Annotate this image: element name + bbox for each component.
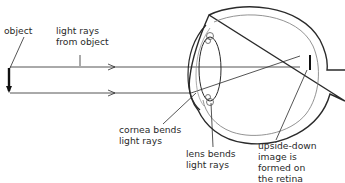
object-arrow-icon	[6, 68, 12, 93]
label-object: object	[4, 25, 32, 36]
label-lens: lens bends light rays	[186, 148, 236, 170]
label-light-rays: light rays from object	[56, 25, 109, 47]
label-retina: upside-down image is formed on the retin…	[258, 140, 317, 183]
label-cornea: cornea bends light rays	[119, 124, 181, 146]
light-rays	[10, 56, 300, 96]
